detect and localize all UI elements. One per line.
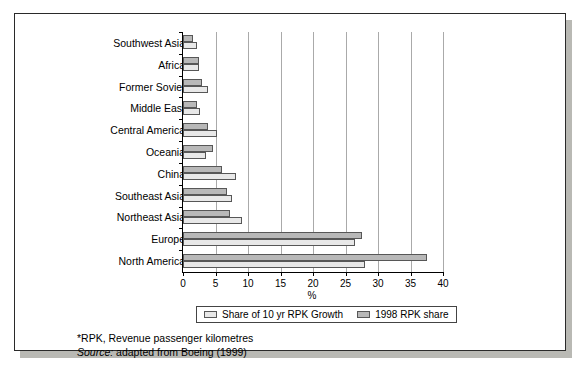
legend-label-growth: Share of 10 yr RPK Growth: [222, 309, 343, 320]
y-axis-category-labels: Southwest AsiaAfricaFormer SovietMiddle …: [75, 32, 185, 272]
bar-1998-rpk-share: [183, 210, 230, 217]
plot-area: 0510152025303540: [182, 32, 443, 273]
source-text: adapted from Boeing (1999): [113, 346, 247, 358]
bar-share-of-10yr-rpk-growth: [183, 130, 217, 137]
x-axis-tick-label: 20: [300, 278, 326, 289]
chart-legend: Share of 10 yr RPK Growth 1998 RPK share: [196, 306, 457, 323]
y-axis-label-africa: Africa: [75, 60, 185, 70]
x-axis-tick: [248, 272, 249, 276]
y-axis-tick: [179, 76, 183, 77]
legend-item-growth: Share of 10 yr RPK Growth: [204, 309, 343, 320]
legend-swatch-share-icon: [357, 311, 370, 318]
bar-share-of-10yr-rpk-growth: [183, 152, 206, 159]
bar-share-of-10yr-rpk-growth: [183, 195, 232, 202]
y-axis-label-oceania: Oceania: [75, 147, 185, 157]
bar-share-of-10yr-rpk-growth: [183, 42, 197, 49]
y-axis-tick: [179, 32, 183, 33]
x-axis-tick-label: 15: [268, 278, 294, 289]
figure-frame: Southwest AsiaAfricaFormer SovietMiddle …: [14, 13, 566, 351]
bar-1998-rpk-share: [183, 145, 213, 152]
y-axis-label-europe: Europe: [75, 234, 185, 244]
bar-share-of-10yr-rpk-growth: [183, 86, 208, 93]
bar-1998-rpk-share: [183, 123, 208, 130]
bar-1998-rpk-share: [183, 35, 193, 42]
footnote-rpk: *RPK, Revenue passenger kilometres: [77, 332, 253, 346]
x-axis-tick-label: 30: [365, 278, 391, 289]
y-axis-tick: [179, 54, 183, 55]
x-axis-tick-label: 5: [203, 278, 229, 289]
bar-share-of-10yr-rpk-growth: [183, 217, 242, 224]
bar-share-of-10yr-rpk-growth: [183, 239, 355, 246]
y-axis-tick: [179, 97, 183, 98]
y-axis-tick: [179, 250, 183, 251]
legend-item-share: 1998 RPK share: [357, 309, 448, 320]
x-axis-tick: [443, 272, 444, 276]
y-axis-label-southeast-asia: Southeast Asia: [75, 191, 185, 201]
y-axis-tick: [179, 163, 183, 164]
y-axis-tick: [179, 207, 183, 208]
bar-1998-rpk-share: [183, 57, 199, 64]
x-gridline: [378, 32, 379, 272]
bar-1998-rpk-share: [183, 101, 197, 108]
screenshot-page: Southwest AsiaAfricaFormer SovietMiddle …: [0, 0, 587, 378]
x-axis-tick-label: 10: [235, 278, 261, 289]
legend-swatch-growth-icon: [204, 311, 217, 318]
x-gridline: [443, 32, 444, 272]
source-line: Source: adapted from Boeing (1999): [77, 346, 253, 360]
x-axis-tick: [216, 272, 217, 276]
bar-share-of-10yr-rpk-growth: [183, 261, 365, 268]
bar-1998-rpk-share: [183, 79, 202, 86]
x-gridline: [411, 32, 412, 272]
x-axis-unit-label: %: [182, 290, 442, 301]
y-axis-label-middle-east: Middle East: [75, 103, 185, 113]
bar-1998-rpk-share: [183, 232, 362, 239]
x-axis-tick: [281, 272, 282, 276]
y-axis-tick: [179, 141, 183, 142]
y-axis-tick: [179, 185, 183, 186]
y-axis-label-former-soviet: Former Soviet: [75, 82, 185, 92]
y-axis-label-northeast-asia: Northeast Asia: [75, 212, 185, 222]
x-axis-tick: [411, 272, 412, 276]
legend-label-share: 1998 RPK share: [375, 309, 448, 320]
x-axis-tick-label: 25: [333, 278, 359, 289]
y-axis-label-north-america: North America: [75, 256, 185, 266]
y-axis-label-southwest-asia: Southwest Asia: [75, 38, 185, 48]
x-axis-tick: [183, 272, 184, 276]
x-axis-tick: [313, 272, 314, 276]
bar-1998-rpk-share: [183, 254, 427, 261]
y-axis-tick: [179, 228, 183, 229]
bar-share-of-10yr-rpk-growth: [183, 173, 236, 180]
x-axis-tick-label: 35: [398, 278, 424, 289]
bar-share-of-10yr-rpk-growth: [183, 108, 200, 115]
y-axis-label-central-america: Central America: [75, 125, 185, 135]
figure-notes: *RPK, Revenue passenger kilometres Sourc…: [77, 332, 253, 359]
x-axis-tick-label: 0: [170, 278, 196, 289]
bar-chart: Southwest AsiaAfricaFormer SovietMiddle …: [15, 14, 567, 352]
x-axis-tick-label: 40: [430, 278, 456, 289]
source-label: Source:: [77, 346, 113, 358]
bar-1998-rpk-share: [183, 188, 227, 195]
y-axis-label-china: China: [75, 169, 185, 179]
x-axis-tick: [346, 272, 347, 276]
bar-share-of-10yr-rpk-growth: [183, 64, 199, 71]
y-axis-tick: [179, 119, 183, 120]
x-axis-tick: [378, 272, 379, 276]
bar-1998-rpk-share: [183, 166, 222, 173]
